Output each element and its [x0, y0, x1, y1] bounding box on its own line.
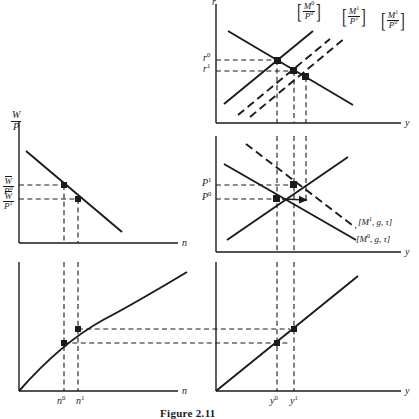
curve-label-lm-m1-p1: [M1P1]: [341, 7, 367, 27]
bottom-left-axes: [19, 262, 178, 391]
tick-r1: r1: [203, 64, 210, 74]
tick-y1: y1: [290, 396, 298, 406]
labor-demand-curve: [26, 151, 122, 232]
tick-y0: y0: [270, 396, 278, 406]
top-left-axes: [19, 122, 178, 243]
lm-curve-m0-p0: [224, 31, 313, 104]
top-right-equilibrium-points: [274, 57, 309, 80]
top-left-y-axis-label: WP: [11, 110, 21, 132]
bottom-right-axes: [216, 262, 401, 391]
curve-label-ad-m0: [M0, g, τ]: [356, 235, 390, 244]
forty-five-degree-line: [216, 276, 358, 391]
bottom-left-x-axis-label: n: [182, 386, 187, 396]
top-right-y-axis-label: r: [212, 0, 216, 7]
curve-label-lm-m1-p0: [M1P0]: [380, 11, 406, 31]
lm-curve-m1-p0: [250, 38, 345, 117]
top-left-x-axis-label: n: [182, 238, 187, 248]
tick-n0: n0: [57, 396, 65, 406]
bottom-right-x-axis-label: y: [405, 386, 409, 396]
tick-P1: P1: [202, 178, 212, 188]
figure-caption: Figure 2.11: [160, 407, 216, 419]
bottom-left-guides: [64, 262, 290, 391]
tick-wbar-p1: WP1: [3, 191, 14, 212]
production-function-curve: [19, 272, 187, 391]
top-left-guides: [19, 185, 78, 243]
curve-label-ad-m1: [M1, g, τ]: [358, 218, 392, 227]
top-right-x-axis-label: y: [405, 118, 409, 128]
curve-label-lm-m0-p0: [M0P0]: [296, 2, 322, 22]
tick-P0: P0: [202, 192, 212, 202]
lm-curve-m1-p1: [238, 39, 330, 115]
tick-n1: n1: [76, 396, 84, 406]
middle-right-x-axis-label: y: [405, 247, 409, 257]
